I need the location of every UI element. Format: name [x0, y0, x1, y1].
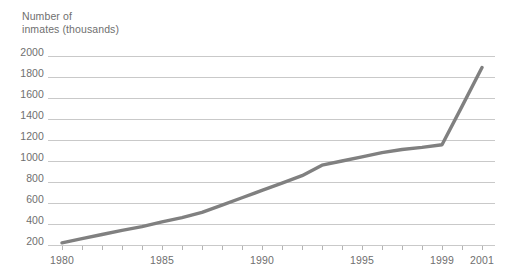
- x-axis-tick: [82, 246, 83, 250]
- x-axis-tick: [262, 246, 263, 250]
- gridline: [48, 119, 495, 120]
- y-axis-tick-label: 200: [4, 236, 44, 247]
- gridline: [48, 77, 495, 78]
- x-axis-tick-label: 2001: [460, 254, 504, 266]
- x-axis-tick: [202, 246, 203, 250]
- y-axis-tick-label: 1800: [4, 68, 44, 79]
- x-axis-tick: [362, 246, 363, 250]
- x-axis-tick: [62, 246, 63, 250]
- y-axis-tick-label: 2000: [4, 47, 44, 58]
- y-axis-tick-label: 1600: [4, 89, 44, 100]
- x-axis-tick: [422, 246, 423, 250]
- x-axis-tick: [382, 246, 383, 250]
- gridline: [48, 161, 495, 162]
- x-axis-tick: [462, 246, 463, 250]
- y-axis-tick-label: 800: [4, 173, 44, 184]
- y-axis-tick-label: 400: [4, 215, 44, 226]
- line-chart: Number ofinmates (thousands) 20001800160…: [0, 0, 518, 277]
- x-axis-tick: [342, 246, 343, 250]
- y-axis-tick-label: 1400: [4, 110, 44, 121]
- x-axis-tick: [442, 246, 443, 250]
- plot-area: [48, 56, 495, 245]
- x-axis-tick: [322, 246, 323, 250]
- gridline: [48, 203, 495, 204]
- x-axis-tick: [102, 246, 103, 250]
- gridline: [48, 224, 495, 225]
- x-axis-tick: [282, 246, 283, 250]
- x-axis-tick: [142, 246, 143, 250]
- x-axis-tick-label: 1999: [420, 254, 464, 266]
- x-axis-tick-label: 1980: [40, 254, 84, 266]
- gridline: [48, 56, 495, 57]
- x-axis-tick: [222, 246, 223, 250]
- y-axis-tick-labels: 200018001600140012001000800600400200: [0, 0, 44, 277]
- x-axis-tick: [242, 246, 243, 250]
- x-axis-tick: [402, 246, 403, 250]
- y-axis-tick-label: 1200: [4, 131, 44, 142]
- x-axis-tick: [122, 246, 123, 250]
- y-axis-tick-label: 1000: [4, 152, 44, 163]
- x-axis-tick-label: 1985: [140, 254, 184, 266]
- gridline: [48, 140, 495, 141]
- x-axis-tick: [302, 246, 303, 250]
- x-axis-tick-label: 1995: [340, 254, 384, 266]
- x-axis-tick: [182, 246, 183, 250]
- x-axis-tick-label: 1990: [240, 254, 284, 266]
- gridline: [48, 182, 495, 183]
- x-axis-tick: [162, 246, 163, 250]
- x-axis-tick: [482, 246, 483, 250]
- gridline: [48, 98, 495, 99]
- y-axis-tick-label: 600: [4, 194, 44, 205]
- x-axis-line: [48, 245, 495, 246]
